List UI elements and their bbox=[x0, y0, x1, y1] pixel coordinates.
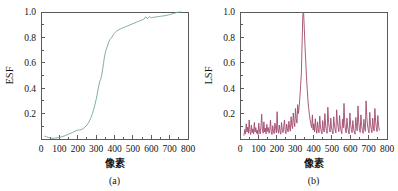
panel-label: (b) bbox=[308, 175, 320, 187]
x-tick-label: 700 bbox=[362, 144, 377, 154]
y-tick-label: 0.4 bbox=[223, 84, 235, 94]
y-axis-title: LSF bbox=[203, 66, 214, 84]
y-tick-label: 1.0 bbox=[24, 7, 36, 17]
esf-chart-svg: 01002003004005006007008000.20.40.60.81.0… bbox=[0, 0, 199, 191]
x-tick-label: 200 bbox=[71, 144, 86, 154]
data-series-esf bbox=[45, 12, 181, 138]
chart-panel-b: 01002003004005006007008000.20.40.60.81.0… bbox=[199, 0, 398, 191]
y-tick-label: 1.0 bbox=[223, 7, 235, 17]
data-series-lsf bbox=[244, 12, 379, 135]
y-tick-label: 0.8 bbox=[24, 33, 36, 43]
y-tick-label: 0.6 bbox=[24, 58, 36, 68]
lsf-chart-svg: 01002003004005006007008000.20.40.60.81.0… bbox=[199, 0, 398, 191]
x-tick-label: 600 bbox=[343, 144, 358, 154]
plot-frame bbox=[41, 12, 188, 139]
x-tick-label: 0 bbox=[39, 144, 44, 154]
x-tick-label: 100 bbox=[251, 144, 266, 154]
x-tick-label: 400 bbox=[306, 144, 321, 154]
y-tick-label: 0.2 bbox=[24, 109, 36, 119]
y-tick-label: 0.4 bbox=[24, 84, 36, 94]
x-tick-label: 0 bbox=[238, 144, 243, 154]
x-tick-label: 300 bbox=[288, 144, 303, 154]
panel-label: (a) bbox=[109, 175, 120, 187]
x-tick-label: 700 bbox=[163, 144, 178, 154]
x-tick-label: 300 bbox=[89, 144, 104, 154]
x-tick-label: 800 bbox=[181, 144, 196, 154]
x-axis-title: 像素 bbox=[104, 157, 125, 169]
y-tick-label: 0.2 bbox=[223, 109, 235, 119]
y-tick-label: 0.6 bbox=[223, 58, 235, 68]
x-tick-label: 400 bbox=[107, 144, 122, 154]
y-tick-label: 0.8 bbox=[223, 33, 235, 43]
x-tick-label: 100 bbox=[52, 144, 67, 154]
x-tick-label: 500 bbox=[325, 144, 340, 154]
y-axis-title: ESF bbox=[4, 66, 15, 84]
x-axis-title: 像素 bbox=[303, 157, 324, 169]
chart-panel-a: 01002003004005006007008000.20.40.60.81.0… bbox=[0, 0, 199, 191]
figure-container: 01002003004005006007008000.20.40.60.81.0… bbox=[0, 0, 398, 191]
x-tick-label: 500 bbox=[126, 144, 141, 154]
x-tick-label: 800 bbox=[380, 144, 395, 154]
x-tick-label: 200 bbox=[270, 144, 285, 154]
x-tick-label: 600 bbox=[144, 144, 159, 154]
